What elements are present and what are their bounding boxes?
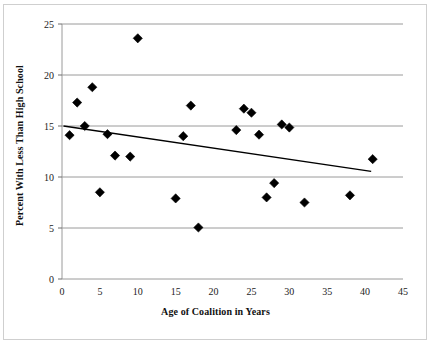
x-tick-label: 15 bbox=[171, 286, 181, 297]
x-axis-title: Age of Coalition in Years bbox=[0, 306, 431, 317]
x-tick-label: 40 bbox=[360, 286, 370, 297]
x-tick-label: 35 bbox=[322, 286, 332, 297]
y-axis-tick-labels: 0510152025 bbox=[44, 19, 54, 285]
chart-canvas: 0510152025 051015202530354045 bbox=[0, 0, 431, 344]
x-tick-label: 20 bbox=[209, 286, 219, 297]
x-axis-tick-labels: 051015202530354045 bbox=[60, 286, 409, 297]
x-tick-label: 0 bbox=[60, 286, 65, 297]
x-tick-label: 10 bbox=[133, 286, 143, 297]
x-tick-label: 45 bbox=[398, 286, 408, 297]
y-tick-label: 0 bbox=[49, 274, 54, 285]
scatter-plot-figure: 0510152025 051015202530354045 Percent Wi… bbox=[0, 0, 431, 344]
y-tick-label: 10 bbox=[44, 172, 54, 183]
x-tick-label: 30 bbox=[284, 286, 294, 297]
y-axis-ticks bbox=[58, 24, 62, 279]
x-tick-label: 5 bbox=[97, 286, 102, 297]
y-tick-label: 20 bbox=[44, 70, 54, 81]
x-tick-label: 25 bbox=[246, 286, 256, 297]
y-tick-label: 5 bbox=[49, 223, 54, 234]
y-tick-label: 15 bbox=[44, 121, 54, 132]
y-tick-label: 25 bbox=[44, 19, 54, 30]
